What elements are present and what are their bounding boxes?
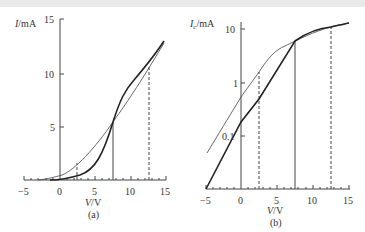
y-axis-label-b: Ic/mA: [189, 18, 215, 31]
xtick-10: 10: [125, 186, 135, 197]
ytick-5: 5: [50, 122, 55, 133]
panel-label-a: (a): [88, 209, 99, 221]
xtick-5: 5: [92, 186, 97, 197]
xtick-15: 15: [160, 186, 170, 197]
xtick-15: 15: [343, 195, 353, 206]
thick-curve: [50, 41, 164, 180]
ytick-15: 15: [44, 14, 54, 25]
ytick-1: 1: [233, 78, 238, 89]
xtick-0: 0: [57, 186, 62, 197]
xtick-10: 10: [307, 195, 317, 206]
ytick-0-1: 0.1: [222, 131, 235, 142]
ytick-10: 10: [44, 69, 54, 80]
panel-label-b: (b): [270, 217, 282, 229]
xtick--5: −5: [200, 195, 211, 206]
xtick--5: −5: [18, 186, 29, 197]
thin-curve: [38, 43, 164, 180]
figure: I/mA 15 10 5 −5 0 5 10 15 V/V (a) Ic/mA …: [0, 0, 365, 232]
xtick-0: 0: [238, 195, 243, 206]
y-axis-label-a: I/mA: [14, 18, 37, 29]
panel-b: [206, 22, 350, 189]
thick-curve: [206, 23, 349, 189]
x-axis-label-a: V/V: [85, 197, 102, 208]
x-axis-label-b: V/V: [267, 205, 284, 216]
ytick-10: 10: [225, 24, 235, 35]
panel-a: [24, 19, 166, 180]
